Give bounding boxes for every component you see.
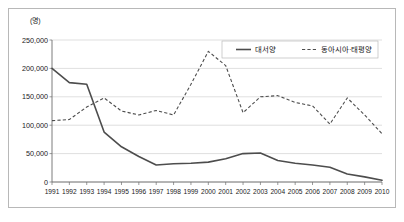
legend-label: 대서양 <box>255 45 276 54</box>
x-axis-tick-label: 2009 <box>357 188 372 195</box>
x-axis-tick-label: 1991 <box>45 188 60 195</box>
x-axis-tick-label: 2001 <box>218 188 233 195</box>
y-axis-tick-label: 250,000 <box>22 36 48 45</box>
x-axis-tick-label: 2000 <box>201 188 216 195</box>
y-axis-tick-label: 200,000 <box>22 64 48 73</box>
x-axis-tick-label: 1996 <box>132 188 147 195</box>
x-axis-tick-label: 2007 <box>323 188 338 195</box>
x-axis-tick-labels: 1991199219931994199519961997199819992000… <box>45 188 390 195</box>
x-axis-tick-label: 1994 <box>97 188 112 195</box>
chart-figure: (명) 050,000100,000150,000200,000250,000 … <box>0 0 404 222</box>
x-axis-tick-label: 2003 <box>253 188 268 195</box>
x-axis-tick-label: 1995 <box>114 188 129 195</box>
y-axis-tick-labels: 050,000100,000150,000200,000250,000 <box>22 36 52 187</box>
x-axis-tick-label: 1993 <box>79 188 94 195</box>
x-axis-tick-label: 2008 <box>340 188 355 195</box>
x-axis-tick-label: 1998 <box>166 188 181 195</box>
data-series-group <box>52 51 382 180</box>
line-chart-plot: 050,000100,000150,000200,000250,000 1991… <box>0 0 404 222</box>
x-axis-tick-label: 1999 <box>184 188 199 195</box>
x-axis-tick-label: 1997 <box>149 188 164 195</box>
x-axis-tick-label: 2002 <box>236 188 251 195</box>
legend-label: 동아시아·태평양 <box>321 45 372 54</box>
y-axis-tick-label: 0 <box>44 178 48 187</box>
x-axis-tick-label: 2006 <box>305 188 320 195</box>
y-axis-tick-label: 100,000 <box>22 121 48 130</box>
chart-legend: 대서양동아시아·태평양 <box>222 41 378 58</box>
x-axis-tick-label: 2004 <box>270 188 285 195</box>
x-axis-tick-label: 1992 <box>62 188 77 195</box>
series-line-dashed <box>52 51 382 133</box>
x-axis-tick-label: 2010 <box>375 188 390 195</box>
x-axis-tick-label: 2005 <box>288 188 303 195</box>
y-axis-tick-label: 150,000 <box>22 92 48 101</box>
series-line-solid <box>52 68 382 180</box>
y-axis-tick-label: 50,000 <box>26 149 48 158</box>
